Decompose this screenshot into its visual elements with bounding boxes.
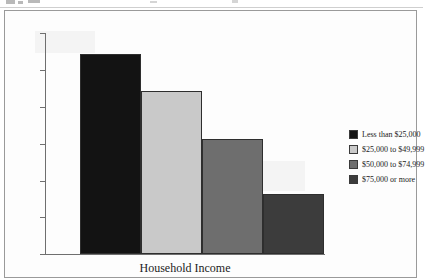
y-tick-25 — [40, 70, 46, 71]
y-tick-20 — [40, 107, 46, 108]
chart-legend: Less than $25,000 $25,000 to $49,999 $50… — [349, 128, 427, 188]
y-tick-10 — [40, 181, 46, 182]
y-tick-15 — [40, 144, 46, 145]
legend-item-50000-to-74999[interactable]: $50,000 to $74,999 — [349, 158, 427, 172]
legend-item-label: Less than $25,000 — [362, 128, 420, 141]
legend-item-label: $75,000 or more — [362, 173, 415, 186]
y-tick-5 — [40, 217, 46, 218]
legend-item-label: $50,000 to $74,999 — [362, 158, 424, 171]
x-axis-line — [45, 254, 325, 255]
legend-swatch-icon — [349, 145, 358, 154]
legend-item-25000-to-49999[interactable]: $25,000 to $49,999 — [349, 143, 427, 157]
legend-item-75000-or-more[interactable]: $75,000 or more — [349, 173, 427, 187]
x-axis-title: Household Income — [45, 261, 325, 276]
legend-swatch-icon — [349, 160, 358, 169]
y-tick-30 — [40, 33, 46, 34]
scan-artifact-strip — [0, 0, 423, 9]
bar-25000-to-49999[interactable] — [141, 91, 202, 254]
legend-swatch-icon — [349, 175, 358, 184]
bar-75000-or-more[interactable] — [263, 194, 324, 254]
bar-50000-to-74999[interactable] — [202, 139, 263, 254]
legend-item-label: $25,000 to $49,999 — [362, 143, 424, 156]
y-tick-0 — [40, 254, 46, 255]
bar-less-than-25000[interactable] — [80, 54, 141, 254]
legend-swatch-icon — [349, 130, 358, 139]
plot-area: 30.0% 25.0% 20.0% 15.0% 10.0% 5.0% 0.0% — [45, 33, 325, 255]
legend-item-less-than-25000[interactable]: Less than $25,000 — [349, 128, 427, 142]
chart-figure-frame: 30.0% 25.0% 20.0% 15.0% 10.0% 5.0% 0.0% … — [4, 10, 417, 278]
